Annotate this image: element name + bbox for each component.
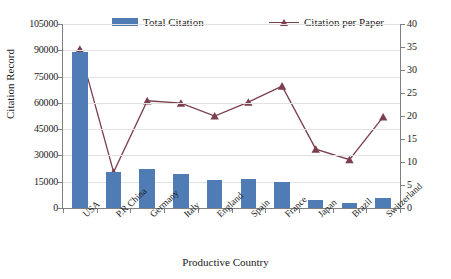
line-marker-switzerland — [379, 113, 387, 121]
gridline — [63, 155, 400, 156]
y-axis-right-label: 15 — [407, 134, 427, 144]
y-tick-left — [58, 77, 62, 78]
y-axis-right-label: 0 — [407, 203, 427, 213]
gridline — [63, 129, 400, 130]
y-axis-right-label: 35 — [407, 42, 427, 52]
y-tick-right — [401, 162, 405, 163]
gridline — [63, 103, 400, 104]
plot-area — [63, 24, 400, 208]
bar-france — [274, 182, 290, 208]
y-axis-left-label: 60000 — [12, 98, 58, 108]
y-tick-left — [58, 129, 62, 130]
y-axis-right-label: 20 — [407, 111, 427, 121]
x-axis-title: Productive Country — [0, 256, 451, 268]
y-axis-left-label: 15000 — [12, 177, 58, 187]
y-tick-right — [401, 116, 405, 117]
y-tick-left — [58, 182, 62, 183]
gridline — [63, 77, 400, 78]
y-tick-right — [401, 93, 405, 94]
y-axis-left-label: 90000 — [12, 45, 58, 55]
y-tick-left — [58, 50, 62, 51]
line-marker-japan — [312, 145, 320, 153]
y-tick-left — [58, 103, 62, 104]
y-tick-left — [58, 208, 62, 209]
y-axis-left-label: 30000 — [12, 150, 58, 160]
bar-spain — [241, 179, 257, 208]
y-axis-left-label: 105000 — [12, 19, 58, 29]
y-tick-left — [58, 155, 62, 156]
y-axis-right-label: 40 — [407, 19, 427, 29]
y-tick-right — [401, 47, 405, 48]
y-tick-right — [401, 70, 405, 71]
line-marker-france — [278, 82, 286, 90]
y-tick-right — [401, 185, 405, 186]
gridline — [63, 24, 400, 25]
line-path — [80, 49, 383, 172]
y-axis-left-label: 45000 — [12, 124, 58, 134]
bar-usa — [72, 52, 88, 208]
y-tick-right — [401, 139, 405, 140]
y-axis-right-label: 10 — [407, 157, 427, 167]
y-axis-right-label: 30 — [407, 65, 427, 75]
y-axis-right-label: 25 — [407, 88, 427, 98]
bar-england — [207, 180, 223, 208]
bar-p-r-china — [106, 172, 122, 208]
y-tick-right — [401, 24, 405, 25]
x-tick — [63, 209, 64, 213]
y-axis-left-label: 75000 — [12, 72, 58, 82]
gridline — [63, 50, 400, 51]
line-marker-england — [210, 112, 218, 120]
y-tick-left — [58, 24, 62, 25]
y-axis-left-label: 0 — [12, 203, 58, 213]
citation-record-chart: Total Citation Citation per Paper Citati… — [0, 0, 451, 279]
